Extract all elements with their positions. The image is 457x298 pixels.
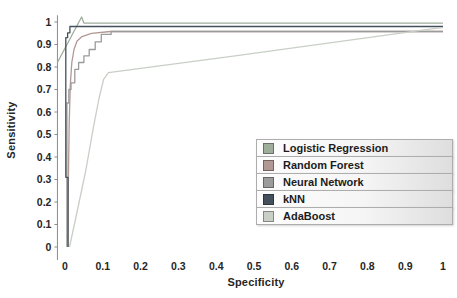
- legend-item-label: kNN: [283, 193, 305, 205]
- x-axis-tick-label: 0.2: [133, 260, 148, 272]
- legend-item: Logistic Regression: [256, 139, 453, 157]
- y-axis-tick-label: 0.6: [37, 106, 52, 118]
- x-axis-tick-label: 0.1: [95, 260, 110, 272]
- y-axis-tick-label: 0.4: [37, 151, 52, 163]
- legend-swatch-icon: [263, 143, 274, 154]
- y-axis-tick-label: 0.2: [37, 196, 52, 208]
- x-axis-tick-label: 0: [62, 260, 68, 272]
- roc-curve-figure: 10.90.80.70.60.50.40.30.20.1000.10.20.30…: [0, 0, 457, 298]
- y-axis-title: Sensitivity: [5, 70, 17, 190]
- legend-item-label: Logistic Regression: [283, 142, 388, 154]
- x-axis-tick-label: 0.5: [247, 260, 262, 272]
- legend-swatch-icon: [263, 194, 274, 205]
- y-axis-tick-label: 0.3: [37, 173, 52, 185]
- legend-item-label: Random Forest: [283, 159, 364, 171]
- legend-item: Random Forest: [256, 156, 453, 174]
- y-axis-tick-label: 0.7: [37, 83, 52, 95]
- legend-item-label: Neural Network: [283, 176, 364, 188]
- x-axis-tick-label: 0.9: [398, 260, 413, 272]
- x-axis-tick-label: 0.3: [171, 260, 186, 272]
- chart-legend: Logistic RegressionRandom ForestNeural N…: [256, 140, 453, 225]
- legend-swatch-icon: [263, 177, 274, 188]
- y-axis-tick-label: 0.8: [37, 61, 52, 73]
- y-axis-tick-label: 0.5: [37, 128, 52, 140]
- x-axis-tick-label: 0.8: [360, 260, 375, 272]
- x-axis-tick-label: 0.7: [322, 260, 337, 272]
- x-axis-tick-label: 0.4: [209, 260, 224, 272]
- legend-swatch-icon: [263, 160, 274, 171]
- x-axis-tick-label: 0.6: [284, 260, 299, 272]
- y-axis-tick-label: 1: [46, 16, 52, 28]
- y-axis-tick-label: 0.9: [37, 38, 52, 50]
- legend-item: kNN: [256, 190, 453, 208]
- x-axis-tick-label: 1: [440, 260, 446, 272]
- legend-item: Neural Network: [256, 173, 453, 191]
- legend-swatch-icon: [263, 211, 274, 222]
- legend-item: AdaBoost: [256, 207, 453, 225]
- y-axis-tick-label: 0.1: [37, 218, 52, 230]
- y-axis-tick-label: 0: [46, 241, 52, 253]
- series-line-logistic-regression: [57, 17, 443, 63]
- legend-item-label: AdaBoost: [283, 210, 335, 222]
- x-axis-title: Specificity: [196, 276, 316, 288]
